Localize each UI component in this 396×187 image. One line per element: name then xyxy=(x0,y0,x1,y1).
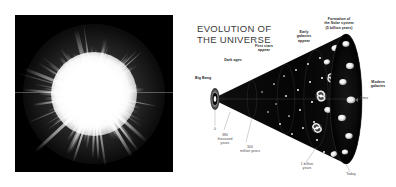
label-first-stars-appear: First stars appear xyxy=(247,44,281,53)
label-solar-system-formation: Formation of the Solar system (5 billion… xyxy=(316,17,362,30)
label-time-axis: Time xyxy=(360,96,368,100)
marker-recombination: 380 thousand years xyxy=(212,133,238,145)
label-big-bang: Big Bang xyxy=(195,76,221,80)
marker-first-light: 300 million years xyxy=(234,145,266,153)
arrow-right-icon xyxy=(355,98,358,102)
marker-origin: 0 xyxy=(208,127,222,131)
cone-stage: Big Bang Dark ages First stars appear Ea… xyxy=(190,0,396,187)
burst-core xyxy=(51,52,137,136)
cosmic-burst-image xyxy=(15,15,173,172)
marker-today: Today xyxy=(340,172,362,176)
evolution-of-the-universe-figure: EVOLUTION OF THE UNIVERSE xyxy=(0,0,396,187)
cone-graphic xyxy=(190,0,396,187)
marker-one-billion-years: 1 billion years xyxy=(294,162,320,170)
scanline-upper xyxy=(15,92,173,93)
evolution-of-the-universe-diagram: EVOLUTION OF THE UNIVERSE xyxy=(190,0,396,187)
label-modern-galaxies: Modern galaxies xyxy=(364,80,392,89)
label-dark-ages: Dark ages xyxy=(218,58,248,62)
label-early-galaxies-appear: Early galaxies appear xyxy=(291,30,317,43)
